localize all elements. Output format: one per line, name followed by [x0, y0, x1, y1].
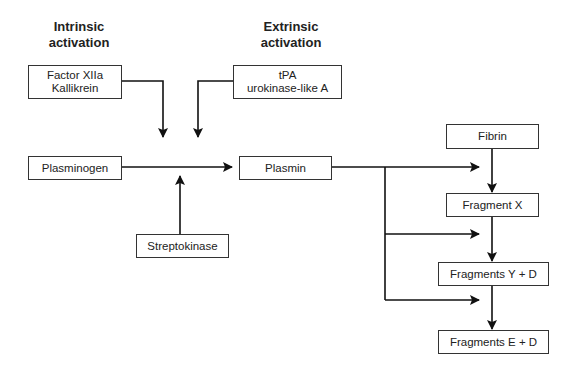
fragments-e-d-node: Fragments E + D	[438, 330, 549, 354]
factor-xiia-kallikrein-node: Factor XIIa Kallikrein	[28, 65, 122, 99]
fragment-x-node: Fragment X	[446, 193, 539, 217]
node-label: Kallikrein	[52, 82, 99, 95]
streptokinase-node: Streptokinase	[136, 234, 229, 258]
node-label: Plasminogen	[42, 162, 108, 175]
node-label: Fragments Y + D	[450, 268, 537, 281]
node-label: Fragments E + D	[450, 336, 537, 349]
fibrin-node: Fibrin	[446, 124, 539, 149]
arrow-tpa	[198, 81, 233, 137]
fragments-y-d-node: Fragments Y + D	[438, 262, 549, 286]
node-label: Streptokinase	[147, 240, 217, 253]
node-label: Fragment X	[462, 199, 522, 212]
node-label: Plasmin	[265, 162, 306, 175]
plasminogen-node: Plasminogen	[28, 156, 122, 180]
node-label: tPA	[279, 69, 297, 82]
node-label: urokinase-like A	[247, 82, 328, 95]
plasmin-node: Plasmin	[239, 156, 332, 180]
connector-lines	[0, 0, 580, 372]
tpa-urokinase-node: tPA urokinase-like A	[233, 65, 342, 99]
node-label: Factor XIIa	[47, 69, 103, 82]
node-label: Fibrin	[478, 130, 507, 143]
arrow-factor-xiia	[121, 81, 163, 137]
